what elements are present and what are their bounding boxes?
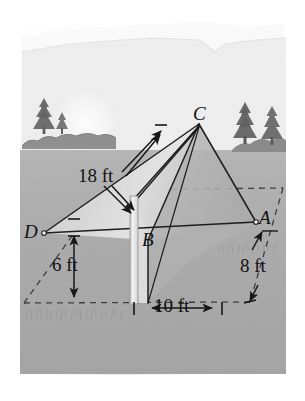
- vertex-label-a: A: [259, 208, 271, 227]
- vertex-label-c: C: [193, 104, 206, 123]
- dimension-label-8ft: 8 ft: [240, 256, 266, 275]
- dimension-label-6ft: 6 ft: [52, 255, 78, 274]
- tent-geometry-illustration: [0, 0, 305, 401]
- figure-canvas: C D B A 18 ft 6 ft 8 ft 10 ft: [0, 0, 305, 401]
- vertex-label-b: B: [142, 230, 154, 249]
- dimension-label-10ft: 10 ft: [154, 296, 189, 315]
- vertex-label-d: D: [24, 222, 38, 241]
- dimension-label-18ft: 18 ft: [78, 166, 113, 185]
